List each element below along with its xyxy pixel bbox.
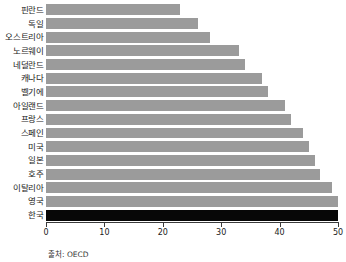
x-axis-line — [46, 222, 338, 223]
bar — [46, 18, 198, 29]
bar — [46, 100, 285, 111]
bar — [46, 59, 245, 70]
bar-row: 미국 — [0, 140, 346, 154]
category-label: 이탈리아 — [0, 183, 44, 193]
category-label: 노르웨이 — [0, 46, 44, 56]
x-axis-tick — [104, 222, 105, 227]
category-label: 오스트리아 — [0, 32, 44, 42]
category-label: 호주 — [0, 169, 44, 179]
bar — [46, 210, 338, 221]
bar-row: 프랑스 — [0, 113, 346, 127]
bar-row: 한국 — [0, 208, 346, 222]
x-axis-tick-label: 0 — [31, 228, 61, 237]
category-label: 벨기에 — [0, 87, 44, 97]
category-label: 독일 — [0, 19, 44, 29]
category-label: 프랑스 — [0, 114, 44, 124]
bar-chart: 핀란드독일오스트리아노르웨이네덜란드캐나다벨기에아일랜드프랑스스페인미국일본호주… — [0, 0, 346, 262]
category-label: 스페인 — [0, 128, 44, 138]
x-axis-tick-label: 50 — [323, 228, 346, 237]
bar — [46, 128, 303, 139]
category-label: 아일랜드 — [0, 101, 44, 111]
category-label: 캐나다 — [0, 73, 44, 83]
x-axis-tick — [163, 222, 164, 227]
category-label: 네덜란드 — [0, 60, 44, 70]
bar-row: 네덜란드 — [0, 58, 346, 72]
bar — [46, 141, 309, 152]
x-axis-tick-label: 40 — [265, 228, 295, 237]
x-axis-tick — [280, 222, 281, 227]
x-axis-tick-label: 30 — [206, 228, 236, 237]
bar-row: 핀란드 — [0, 3, 346, 17]
x-axis-tick-label: 20 — [148, 228, 178, 237]
bar — [46, 86, 268, 97]
bar — [46, 155, 315, 166]
bar-row: 호주 — [0, 167, 346, 181]
bar-row: 벨기에 — [0, 85, 346, 99]
bar — [46, 196, 338, 207]
bar — [46, 45, 239, 56]
bar-row: 일본 — [0, 154, 346, 168]
category-label: 핀란드 — [0, 5, 44, 15]
x-axis-tick — [221, 222, 222, 227]
category-label: 일본 — [0, 155, 44, 165]
plot-area: 핀란드독일오스트리아노르웨이네덜란드캐나다벨기에아일랜드프랑스스페인미국일본호주… — [0, 0, 346, 222]
x-axis-tick — [46, 222, 47, 227]
category-label: 한국 — [0, 210, 44, 220]
bar — [46, 182, 332, 193]
bar-row: 영국 — [0, 195, 346, 209]
bar-row: 아일랜드 — [0, 99, 346, 113]
bar-row: 캐나다 — [0, 71, 346, 85]
bar-row: 스페인 — [0, 126, 346, 140]
bar — [46, 73, 262, 84]
bar-row: 독일 — [0, 17, 346, 31]
bar — [46, 169, 320, 180]
category-label: 미국 — [0, 142, 44, 152]
category-label: 영국 — [0, 196, 44, 206]
bar-row: 이탈리아 — [0, 181, 346, 195]
x-axis-tick — [338, 222, 339, 227]
x-axis-tick-label: 10 — [89, 228, 119, 237]
source-note: 출처: OECD — [48, 248, 89, 259]
bar — [46, 114, 291, 125]
bar — [46, 32, 210, 43]
bar-row: 노르웨이 — [0, 44, 346, 58]
bar — [46, 4, 180, 15]
bar-row: 오스트리아 — [0, 30, 346, 44]
